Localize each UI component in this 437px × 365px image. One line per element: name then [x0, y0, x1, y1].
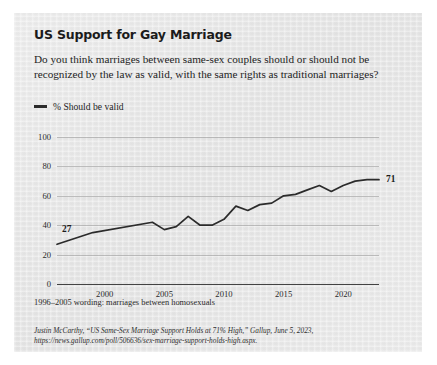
y-axis-tick-label: 40: [42, 220, 51, 230]
y-axis-tick-label: 20: [42, 250, 51, 260]
page-title: US Support for Gay Marriage: [34, 27, 232, 42]
x-axis-tick-label: 2020: [335, 289, 352, 299]
data-series-line: [57, 137, 379, 284]
chart-legend: % Should be valid: [34, 101, 124, 112]
chart-card: US Support for Gay Marriage Do you think…: [14, 13, 422, 352]
y-axis-tick-label: 80: [42, 161, 51, 171]
x-axis-tick-label: 2015: [275, 289, 292, 299]
y-axis-tick-label: 0: [47, 279, 51, 289]
chart-footnote: 1996–2005 wording: marriages between hom…: [34, 298, 215, 307]
legend-label: % Should be valid: [53, 101, 124, 112]
source-url: https://news.gallup.com/poll/506636/sex-…: [34, 336, 410, 346]
y-axis-tick-label: 60: [42, 191, 51, 201]
source-citation: Justin McCarthy, “US Same-Sex Marriage S…: [34, 326, 410, 346]
gridline: [57, 284, 379, 285]
x-axis-tick-label: 2010: [215, 289, 232, 299]
plot-area: 020406080100 20002005201020152020 27 71: [57, 137, 379, 284]
source-line-1: Justin McCarthy, “US Same-Sex Marriage S…: [34, 326, 410, 336]
end-value-label: 71: [386, 174, 395, 184]
legend-line-swatch: [34, 105, 47, 108]
chart-subtitle: Do you think marriages between same-sex …: [34, 52, 408, 82]
start-value-label: 27: [62, 224, 71, 234]
y-axis-tick-label: 100: [38, 132, 51, 142]
